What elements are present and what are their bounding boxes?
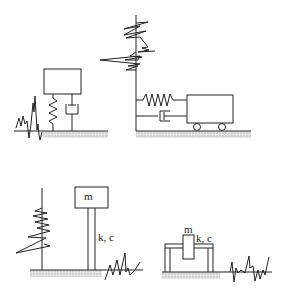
panel-horizontal-cart [100,15,251,138]
ground-hatch [136,131,251,138]
ground-hatch [162,272,220,279]
seismic-wave-icon [16,208,50,253]
mass-block [44,69,81,94]
stiffness-damping-label: k, c [98,232,114,243]
spring-icon [136,94,187,106]
stiffness-damping-label: k, c [196,233,212,244]
diagram-canvas [0,0,287,300]
mass-label: m [184,224,193,235]
panel-vertical-msd [14,69,108,140]
mass-block [183,235,194,259]
panel-cantilever-column [16,187,143,280]
ground-hatch [43,131,108,138]
cart-mass-block [187,95,233,123]
wheel-icon [194,124,201,131]
mass-label: m [84,191,93,202]
spring-icon [49,94,57,131]
panel-frame-mass [162,235,272,282]
ground-hatch [30,270,102,277]
seismic-wave-icon [16,96,42,140]
seismic-wave-icon-2 [105,253,140,280]
seismic-wave-icon [124,22,155,52]
wheel-icon [219,124,226,131]
seismic-wave-icon [230,256,269,282]
